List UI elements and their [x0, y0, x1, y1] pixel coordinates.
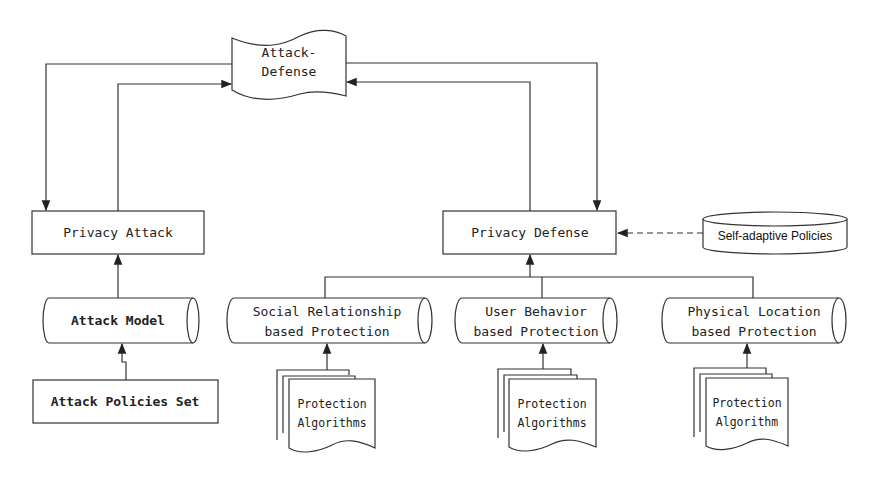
physical-location-node: Physical Location based Protection: [662, 298, 846, 343]
algo-physical-label-2: Algorithm: [716, 415, 778, 429]
social-relationship-node: Social Relationship based Protection: [227, 298, 432, 343]
attack-policies-set-node: Attack Policies Set: [33, 380, 218, 423]
edge-privacydefense-to-attackdefense: [347, 82, 530, 211]
social-label-1: Social Relationship: [253, 304, 402, 319]
user-behavior-label-1: User Behavior: [485, 304, 587, 319]
algo-user-node: Protection Algorithms: [498, 369, 596, 451]
physical-location-label-2: based Protection: [691, 324, 816, 339]
self-adaptive-policies-label: Self-adaptive Policies: [718, 229, 833, 243]
privacy-defense-node: Privacy Defense: [443, 211, 616, 254]
attack-defense-label-2: Defense: [262, 64, 317, 79]
algo-social-label-2: Algorithms: [297, 416, 366, 430]
physical-location-label-1: Physical Location: [687, 304, 820, 319]
attack-defense-node: Attack- Defense: [232, 30, 346, 99]
self-adaptive-policies-node: Self-adaptive Policies: [703, 212, 847, 254]
attack-model-node: Attack Model: [43, 298, 199, 343]
edge-attackdefense-to-privacyattack: [46, 64, 232, 210]
attack-defense-label-1: Attack-: [262, 45, 317, 60]
algo-user-label-2: Algorithms: [517, 416, 586, 430]
user-behavior-node: User Behavior based Protection: [455, 298, 617, 343]
privacy-attack-label: Privacy Attack: [63, 225, 173, 240]
attack-model-label: Attack Model: [71, 313, 165, 328]
algo-physical-node: Protection Algorithm: [694, 368, 788, 450]
user-behavior-label-2: based Protection: [473, 324, 598, 339]
protection-bus: [325, 277, 753, 298]
algo-social-label-1: Protection: [297, 397, 366, 411]
privacy-attack-node: Privacy Attack: [32, 211, 204, 254]
privacy-defense-label: Privacy Defense: [471, 225, 589, 240]
algo-physical-label-1: Protection: [712, 396, 781, 410]
attack-policies-set-label: Attack Policies Set: [51, 394, 200, 409]
algo-user-label-1: Protection: [517, 397, 586, 411]
edge-privacyattack-to-attackdefense: [118, 84, 231, 211]
edge-attackpolicies-to-attackmodel: [122, 344, 126, 380]
edge-attackdefense-to-privacydefense: [346, 63, 597, 210]
social-label-2: based Protection: [264, 324, 389, 339]
algo-social-node: Protection Algorithms: [277, 370, 375, 452]
privacy-attack-defense-diagram: Attack- Defense Privacy Attack Privacy D…: [0, 0, 880, 481]
